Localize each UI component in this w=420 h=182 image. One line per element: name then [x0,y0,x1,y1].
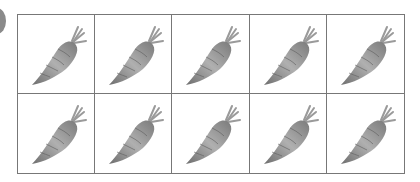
carrot-icon [337,102,397,168]
grid-cell [327,94,404,173]
grid-cell [327,15,404,94]
grid-cell [18,94,95,173]
carrot-icon [105,23,165,89]
carrot-icon [105,102,165,168]
carrot-icon [260,102,320,168]
ten-frame-grid [17,14,405,174]
carrot-icon [260,23,320,89]
grid-cell [250,15,327,94]
carrot-icon [182,23,242,89]
partial-circle-marker [0,8,6,34]
grid-cell [250,94,327,173]
carrot-icon [28,102,88,168]
grid-cell [95,94,172,173]
carrot-icon [28,23,88,89]
carrot-icon [182,102,242,168]
grid-cell [172,94,249,173]
grid-cell [172,15,249,94]
carrot-icon [337,23,397,89]
grid-cell [95,15,172,94]
grid-cell [18,15,95,94]
